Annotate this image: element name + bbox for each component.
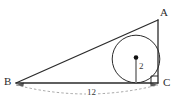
circle-radius-label: 2 xyxy=(139,62,144,71)
base-length-label: 12 xyxy=(86,88,97,97)
circle-center-dot xyxy=(134,55,139,60)
geometry-figure: A B C 12 2 xyxy=(0,0,185,107)
vertex-label-c: C xyxy=(163,77,170,88)
vertex-label-b: B xyxy=(4,76,11,87)
vertex-label-a: A xyxy=(160,7,168,18)
